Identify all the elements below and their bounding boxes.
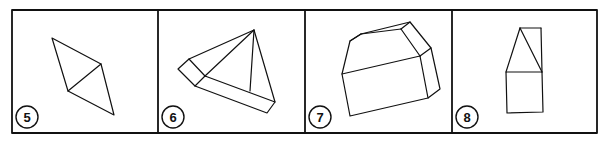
- panel-5-shape: [52, 38, 114, 115]
- panel-6-label: 6: [169, 110, 176, 125]
- panel-7-label: 7: [316, 110, 323, 125]
- panel-5-label: 5: [23, 110, 30, 125]
- panel-6-shape: [178, 30, 275, 113]
- figure-panels: 5 6 7 8: [0, 0, 609, 144]
- panel-8-shape: [506, 28, 543, 113]
- panel-7-shape: [342, 22, 440, 116]
- panel-8-label: 8: [463, 110, 470, 125]
